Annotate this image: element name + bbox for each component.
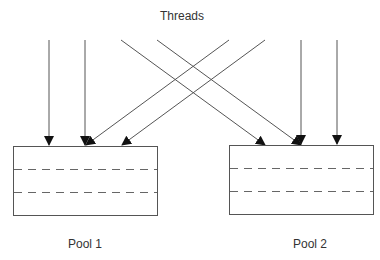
thread-arrow-4 [157, 40, 301, 145]
thread-pool-diagram: Threads Pool 1 Pool 2 [0, 0, 380, 260]
pool-2-box [230, 146, 374, 215]
pool-2-label: Pool 2 [293, 237, 327, 251]
pool-1-box [14, 147, 158, 216]
thread-arrow-5 [86, 40, 229, 145]
threads-title: Threads [160, 9, 204, 23]
pool-1-label: Pool 1 [68, 237, 102, 251]
